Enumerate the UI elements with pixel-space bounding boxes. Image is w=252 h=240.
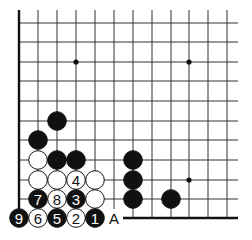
markers: A — [106, 209, 122, 227]
white-stone — [86, 171, 105, 190]
move-number: 3 — [72, 191, 80, 208]
white-stone — [86, 190, 105, 209]
move-number: 5 — [53, 210, 61, 227]
white-stone: 2 — [67, 209, 86, 228]
move-number: 9 — [15, 210, 23, 227]
hoshi-point — [186, 59, 191, 64]
white-stone: 8 — [48, 190, 67, 209]
black-stone: 3 — [67, 190, 86, 209]
move-number: 6 — [34, 210, 42, 227]
move-number: 8 — [53, 191, 61, 208]
black-stone — [67, 151, 86, 170]
black-stone: 7 — [29, 190, 48, 209]
hoshi-point — [186, 177, 191, 182]
move-number: 4 — [72, 172, 80, 189]
white-stone — [29, 171, 48, 190]
black-stone: 5 — [48, 209, 67, 228]
black-stone: 9 — [10, 209, 29, 228]
black-stone — [48, 151, 67, 170]
white-stone: 6 — [29, 209, 48, 228]
black-stone: 1 — [86, 209, 105, 228]
black-stone — [124, 171, 143, 190]
go-board-diagram: 478396521 A — [0, 0, 252, 240]
move-number: 7 — [34, 191, 42, 208]
marker-label: A — [109, 210, 119, 227]
white-stone — [29, 151, 48, 170]
white-stone — [48, 171, 67, 190]
move-number: 1 — [91, 210, 99, 227]
move-number: 2 — [72, 210, 80, 227]
black-stone — [124, 190, 143, 209]
hoshi-point — [73, 59, 78, 64]
black-stone — [162, 190, 181, 209]
black-stone — [29, 131, 48, 150]
black-stone — [48, 112, 67, 131]
black-stone — [124, 151, 143, 170]
white-stone: 4 — [67, 171, 86, 190]
